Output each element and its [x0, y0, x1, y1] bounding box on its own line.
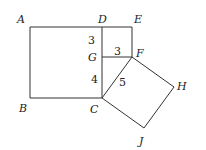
- vertex-label-b: B: [18, 102, 27, 115]
- vertex-label-g: G: [88, 51, 97, 64]
- length-label-cf: 5: [119, 76, 126, 89]
- vertex-label-j: J: [137, 135, 144, 148]
- vertex-label-a: A: [16, 13, 25, 26]
- length-label-gc: 4: [91, 73, 98, 86]
- vertex-label-d: D: [97, 13, 107, 26]
- geometry-diagram: A B C D E F G H J 3 3 4 5: [0, 0, 206, 150]
- square-cfhj: [102, 57, 174, 128]
- vertex-label-c: C: [90, 103, 99, 116]
- length-label-dg: 3: [88, 34, 95, 47]
- vertex-label-e: E: [133, 13, 142, 26]
- length-label-gf: 3: [114, 45, 121, 58]
- vertex-label-h: H: [176, 80, 187, 93]
- vertex-label-f: F: [135, 47, 144, 60]
